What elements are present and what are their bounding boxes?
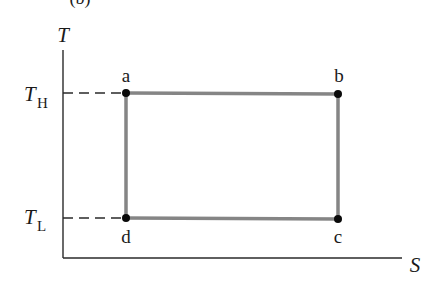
svg-text:L: L (37, 218, 46, 234)
state-point-c (334, 215, 342, 223)
svg-text:H: H (37, 95, 48, 111)
t-low-label: T L (24, 205, 46, 234)
ts-diagram: (b) T S T H T L a b c d (0, 0, 434, 284)
y-axis-label: T (57, 23, 70, 47)
process-c-d (126, 218, 338, 219)
point-label-b: b (334, 65, 344, 86)
point-label-d: d (121, 226, 131, 247)
svg-text:T: T (24, 205, 37, 229)
point-label-c: c (334, 226, 342, 247)
svg-text:T: T (24, 82, 37, 106)
process-a-b (126, 93, 338, 94)
t-high-label: T H (24, 82, 48, 111)
state-point-b (334, 90, 342, 98)
panel-label: (b) (70, 0, 91, 9)
state-point-a (122, 89, 130, 97)
carnot-cycle (126, 93, 338, 219)
point-label-a: a (122, 65, 131, 86)
x-axis-label: S (410, 253, 421, 277)
state-point-d (122, 214, 130, 222)
